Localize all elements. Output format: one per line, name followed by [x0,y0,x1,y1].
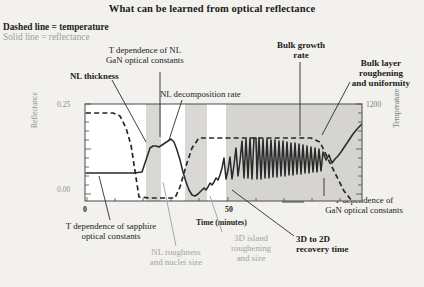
plot-svg [0,0,424,287]
figure-root: What can be learned from optical reflect… [0,0,424,287]
